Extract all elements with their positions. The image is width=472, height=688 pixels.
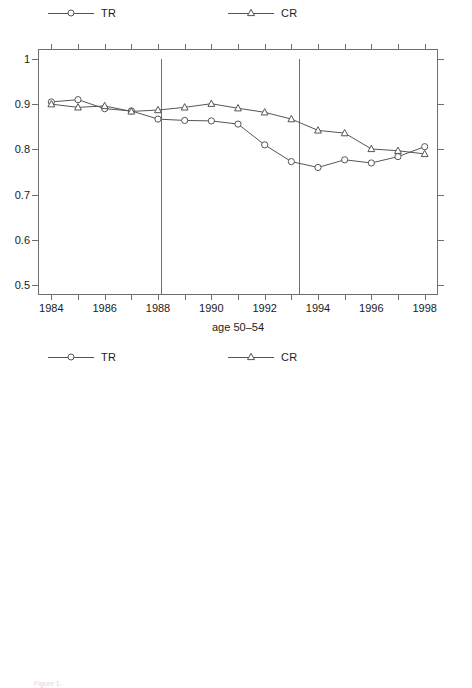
- x-axis-title: age 50–54: [212, 321, 264, 333]
- x-axis-tick: [158, 295, 159, 300]
- x-axis-tick: [398, 295, 399, 300]
- x-axis-label: 1992: [252, 302, 276, 314]
- data-point-tr: [182, 117, 188, 123]
- data-point-tr: [368, 160, 374, 166]
- legend-item-tr: TR: [48, 344, 116, 370]
- legend-label: TR: [101, 351, 116, 363]
- legend-line-swatch: [48, 13, 94, 14]
- data-point-tr: [342, 157, 348, 163]
- figure-caption: Figure 1.: [34, 680, 62, 687]
- plot-area: 0.50.60.70.80.91198419861988199019921994…: [38, 49, 438, 295]
- y-axis-label: 0.8: [15, 143, 30, 155]
- data-point-cr: [368, 145, 375, 151]
- y-axis-tick-right: [438, 195, 444, 196]
- chart-legend: TRCR: [0, 344, 472, 370]
- legend-line-swatch: [228, 13, 274, 14]
- x-axis-tick: [345, 295, 346, 300]
- x-axis-tick: [105, 295, 106, 300]
- x-axis-tick: [51, 295, 52, 300]
- chart-panel-age-55-59: TRCR0.50.60.70.80.9119841986198819901992…: [0, 344, 472, 688]
- data-point-tr: [235, 121, 241, 127]
- x-axis-tick: [265, 295, 266, 300]
- data-point-tr: [395, 154, 401, 160]
- x-axis-tick: [78, 295, 79, 300]
- y-axis-label: 1: [24, 53, 30, 65]
- legend-label: CR: [281, 7, 298, 19]
- x-axis-tick: [371, 295, 372, 300]
- x-axis-label: 1984: [39, 302, 63, 314]
- y-axis-label: 0.5: [15, 279, 30, 291]
- data-point-tr: [288, 159, 294, 165]
- data-point-cr: [208, 100, 215, 106]
- y-axis-label: 0.9: [15, 98, 30, 110]
- chart-legend: TRCR: [0, 0, 472, 26]
- x-axis-tick: [318, 295, 319, 300]
- x-axis-label: 1990: [199, 302, 223, 314]
- chart-panel-age-50-54: TRCR0.50.60.70.80.9119841986198819901992…: [0, 0, 472, 344]
- y-axis-label: 0.6: [15, 234, 30, 246]
- data-point-cr: [101, 102, 108, 108]
- y-axis-tick-right: [438, 59, 444, 60]
- legend-line-swatch: [228, 357, 274, 358]
- legend-label: CR: [281, 351, 298, 363]
- x-axis-label: 1994: [306, 302, 330, 314]
- legend-item-cr: CR: [228, 344, 298, 370]
- triangle-marker: [246, 8, 256, 18]
- data-point-tr: [262, 142, 268, 148]
- x-axis-label: 1986: [92, 302, 116, 314]
- y-axis-label: 0.7: [15, 189, 30, 201]
- data-point-tr: [155, 116, 161, 122]
- x-axis-tick: [238, 295, 239, 300]
- x-axis-tick: [425, 295, 426, 300]
- x-axis-tick: [211, 295, 212, 300]
- y-axis-tick-right: [438, 104, 444, 105]
- x-axis-tick: [185, 295, 186, 300]
- x-axis-label: 1988: [146, 302, 170, 314]
- y-axis-tick-right: [438, 240, 444, 241]
- y-axis-tick-right: [438, 149, 444, 150]
- y-axis-tick-right: [438, 285, 444, 286]
- series-layer: [38, 49, 438, 295]
- circle-marker: [67, 353, 76, 362]
- legend-item-cr: CR: [228, 0, 298, 26]
- x-axis-label: 1996: [359, 302, 383, 314]
- circle-marker: [67, 9, 76, 18]
- legend-item-tr: TR: [48, 0, 116, 26]
- data-point-tr: [315, 164, 321, 170]
- legend-label: TR: [101, 7, 116, 19]
- data-point-tr: [75, 97, 81, 103]
- x-axis-tick: [131, 295, 132, 300]
- x-axis-tick: [291, 295, 292, 300]
- data-point-tr: [422, 144, 428, 150]
- x-axis-label: 1998: [412, 302, 436, 314]
- data-point-tr: [208, 118, 214, 124]
- legend-line-swatch: [48, 357, 94, 358]
- triangle-marker: [246, 352, 256, 362]
